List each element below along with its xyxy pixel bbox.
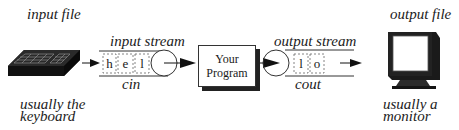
- input-stream-char: h: [103, 57, 116, 70]
- input-file-label: input file: [27, 8, 81, 21]
- output-stream-name: cout: [295, 78, 321, 91]
- input-stream-title: input stream: [110, 35, 185, 48]
- input-device-label-line2: keyboard: [20, 110, 75, 123]
- input-stream-char: e: [118, 57, 133, 70]
- keyboard-icon: [8, 50, 80, 76]
- program-label-line2: Program: [199, 66, 255, 80]
- output-stream-char: l: [294, 57, 308, 70]
- output-stream-char: o: [310, 57, 324, 70]
- output-file-label: output file: [390, 8, 451, 21]
- output-stream-title: output stream: [274, 35, 356, 48]
- monitor-icon: [388, 32, 440, 89]
- your-program-box: Your Program: [198, 45, 256, 87]
- program-label-line1: Your: [199, 52, 255, 66]
- input-stream-name: cin: [122, 78, 140, 91]
- output-device-label-line2: monitor: [383, 110, 431, 123]
- arrow-to-input-stream: [82, 59, 100, 67]
- input-stream-char: l: [135, 57, 149, 70]
